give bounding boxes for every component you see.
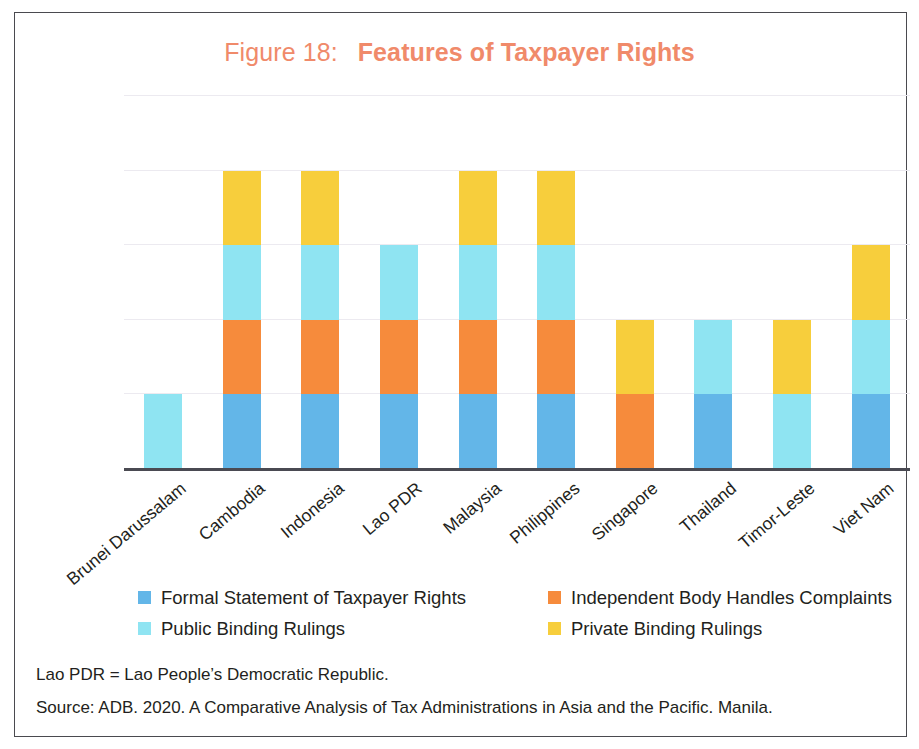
bar-segment[interactable] — [144, 394, 182, 469]
bar-segment[interactable] — [537, 171, 575, 246]
legend-color-swatch — [138, 591, 151, 604]
bar-segment[interactable] — [537, 394, 575, 469]
legend-item[interactable]: Formal Statement of Taxpayer Rights — [138, 587, 548, 609]
bar-segment[interactable] — [301, 394, 339, 469]
stacked-bar[interactable] — [616, 320, 654, 469]
bar-slot — [753, 96, 832, 469]
bar-segment[interactable] — [459, 320, 497, 395]
x-label-slot: Malaysia — [438, 470, 517, 580]
figure-container: Figure 18:Features of Taxpayer Rights Br… — [0, 0, 919, 749]
bar-segment[interactable] — [852, 320, 890, 395]
x-label-slot: Viet Nam — [831, 470, 910, 580]
bar-segment[interactable] — [616, 394, 654, 469]
stacked-bar[interactable] — [852, 245, 890, 469]
x-label-slot: Brunei Darussalam — [124, 470, 203, 580]
x-axis-tick-label: Indonesia — [276, 478, 348, 543]
legend-item[interactable]: Independent Body Handles Complaints — [548, 587, 906, 609]
x-label-slot: Lao PDR — [360, 470, 439, 580]
x-axis-tick-label: Viet Nam — [830, 478, 898, 540]
bar-segment[interactable] — [459, 171, 497, 246]
bar-segment[interactable] — [301, 245, 339, 320]
bar-segment[interactable] — [459, 245, 497, 320]
bar-slot — [281, 96, 360, 469]
x-label-slot: Thailand — [674, 470, 753, 580]
legend-item[interactable]: Public Binding Rulings — [138, 618, 548, 640]
legend-label: Independent Body Handles Complaints — [571, 587, 892, 609]
legend-label: Private Binding Rulings — [571, 618, 762, 640]
bar-slot — [674, 96, 753, 469]
stacked-bar[interactable] — [694, 320, 732, 469]
stacked-bar[interactable] — [301, 171, 339, 469]
bar-segment[interactable] — [223, 394, 261, 469]
bar-segment[interactable] — [459, 394, 497, 469]
abbreviation-note: Lao PDR = Lao People’s Democratic Republ… — [36, 665, 896, 685]
legend-item[interactable]: Private Binding Rulings — [548, 618, 906, 640]
bar-slot — [203, 96, 282, 469]
stacked-bar[interactable] — [380, 245, 418, 469]
bar-segment[interactable] — [694, 320, 732, 395]
figure-notes: Lao PDR = Lao People’s Democratic Republ… — [36, 665, 896, 731]
x-label-slot: Philippines — [517, 470, 596, 580]
bar-slot — [517, 96, 596, 469]
figure-title: Figure 18:Features of Taxpayer Rights — [0, 38, 919, 67]
stacked-bar[interactable] — [223, 171, 261, 469]
legend-label: Formal Statement of Taxpayer Rights — [161, 587, 466, 609]
bar-segment[interactable] — [223, 245, 261, 320]
bar-segment[interactable] — [301, 320, 339, 395]
legend-color-swatch — [138, 622, 151, 635]
stacked-bar[interactable] — [537, 171, 575, 469]
bar-group — [124, 96, 910, 469]
bar-segment[interactable] — [380, 320, 418, 395]
x-axis-tick-label: Malaysia — [439, 478, 505, 538]
x-axis-tick-label: Philippines — [505, 478, 583, 548]
bar-slot — [596, 96, 675, 469]
bar-slot — [438, 96, 517, 469]
x-axis-tick-label: Thailand — [676, 478, 741, 537]
bar-segment[interactable] — [223, 171, 261, 246]
bar-segment[interactable] — [380, 245, 418, 320]
bar-segment[interactable] — [537, 320, 575, 395]
legend-label: Public Binding Rulings — [161, 618, 345, 640]
x-label-slot: Timor-Leste — [753, 470, 832, 580]
x-axis-tick-label: Brunei Darussalam — [63, 478, 190, 590]
x-axis-tick-label: Cambodia — [195, 478, 270, 545]
bar-slot — [360, 96, 439, 469]
bar-segment[interactable] — [773, 394, 811, 469]
bar-segment[interactable] — [852, 394, 890, 469]
bar-segment[interactable] — [223, 320, 261, 395]
bar-segment[interactable] — [301, 171, 339, 246]
page-title: Features of Taxpayer Rights — [358, 38, 695, 66]
bar-slot — [831, 96, 910, 469]
bar-segment[interactable] — [694, 394, 732, 469]
x-axis-tick-label: Singapore — [588, 478, 663, 545]
stacked-bar[interactable] — [144, 394, 182, 469]
legend-color-swatch — [548, 622, 561, 635]
bar-segment[interactable] — [380, 394, 418, 469]
figure-number-label: Figure 18: — [224, 38, 338, 66]
bar-slot — [124, 96, 203, 469]
legend-color-swatch — [548, 591, 561, 604]
chart-legend: Formal Statement of Taxpayer RightsIndep… — [138, 582, 906, 644]
x-axis-labels: Brunei DarussalamCambodiaIndonesiaLao PD… — [124, 470, 910, 580]
bar-segment[interactable] — [773, 320, 811, 395]
stacked-bar[interactable] — [773, 320, 811, 469]
x-label-slot: Indonesia — [281, 470, 360, 580]
x-label-slot: Singapore — [596, 470, 675, 580]
x-axis-tick-label: Lao PDR — [359, 478, 427, 540]
bar-segment[interactable] — [852, 245, 890, 320]
bar-segment[interactable] — [616, 320, 654, 395]
x-label-slot: Cambodia — [203, 470, 282, 580]
stacked-bar[interactable] — [459, 171, 497, 469]
plot-area — [124, 96, 910, 469]
source-note: Source: ADB. 2020. A Comparative Analysi… — [36, 698, 896, 718]
bar-segment[interactable] — [537, 245, 575, 320]
